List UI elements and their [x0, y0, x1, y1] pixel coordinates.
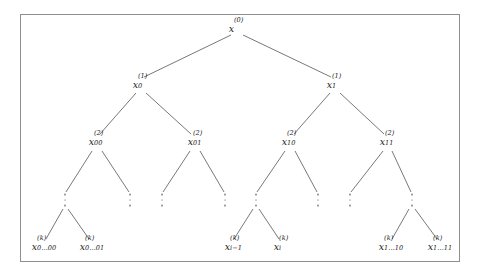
tree-edge [243, 35, 331, 77]
tree-edge [100, 93, 136, 134]
tree-edge [200, 151, 224, 192]
ellipsis-dot [411, 205, 413, 207]
node-superscript: (2) [94, 130, 103, 137]
tree-edge [295, 151, 317, 192]
tree-leaf-l5: x(k)1…101…10 [379, 242, 404, 252]
node-subscript: 0…00 [37, 245, 56, 252]
ellipsis-dot [317, 194, 319, 196]
node-subscript: 11 [385, 140, 393, 147]
tree-diagram-figure: x(0)(0)x(1)0(1)x(1)1(1)x(2)00(2)x(2)01(2… [0, 0, 479, 277]
node-subscript: 1 [332, 83, 336, 90]
node-script-stack: (k)i(k) [279, 242, 288, 252]
node-subscript: 10 [287, 140, 295, 147]
tree-edge [351, 151, 383, 192]
tree-node-n00: x(2)00(2) [89, 137, 104, 147]
tree-edge [257, 151, 285, 192]
tree-leaf-l4: x(k)i(k) [274, 242, 289, 252]
node-script-stack: (1)0(1) [138, 80, 147, 90]
node-script-stack: (k)0…000…00 [37, 242, 56, 252]
node-superscript: (k) [384, 235, 393, 242]
tree-leaf-l3: x(k)i−1(k) [225, 242, 240, 252]
node-script-stack: (0)(0) [234, 24, 243, 34]
node-superscript: (1) [138, 73, 147, 80]
node-script-stack: (1)1(1) [332, 80, 341, 90]
tree-node-n01: x(2)01(2) [188, 137, 203, 147]
node-superscript: (1) [332, 73, 341, 80]
tree-node-root: x(0)(0) [229, 24, 244, 34]
tree-edge [144, 35, 231, 77]
tree-edge [46, 209, 63, 239]
tree-node-n10: x(2)10(2) [282, 137, 297, 147]
node-subscript: 00 [94, 140, 102, 147]
vertical-ellipsis-d2 [129, 194, 132, 207]
ellipsis-dot [349, 199, 351, 201]
tree-edge [163, 151, 190, 192]
node-subscript: 0…01 [85, 245, 104, 252]
ellipsis-dot [255, 194, 257, 196]
ellipsis-dot [161, 205, 163, 207]
ellipsis-dot [317, 199, 319, 201]
ellipsis-dot [255, 199, 257, 201]
ellipsis-dot [224, 194, 226, 196]
vertical-ellipsis-d7 [349, 194, 352, 207]
tree-edge [146, 93, 191, 134]
tree-node-n11: x(2)11(2) [380, 137, 395, 147]
ellipsis-dot [161, 194, 163, 196]
tree-edge [259, 209, 279, 239]
node-script-stack: (k)0…010…01 [85, 242, 104, 252]
ellipsis-dot [64, 205, 66, 207]
tree-edge [102, 151, 129, 192]
ellipsis-dot [129, 194, 131, 196]
ellipsis-dot [411, 194, 413, 196]
ellipsis-dot [224, 205, 226, 207]
ellipsis-dot [64, 199, 66, 201]
ellipsis-dot [129, 199, 131, 201]
node-script-stack: (2)00(2) [94, 137, 103, 147]
node-script-stack: (k)i−1(k) [230, 242, 239, 252]
node-superscript: (2) [385, 130, 394, 137]
node-script-stack: (2)10(2) [287, 137, 296, 147]
node-script-stack: (k)1…101…10 [384, 242, 403, 252]
node-superscript: (2) [193, 130, 202, 137]
node-script-stack: (2)11(2) [385, 137, 394, 147]
ellipsis-dot [317, 205, 319, 207]
node-superscript: (2) [287, 130, 296, 137]
node-script-stack: (k)1…111…11 [433, 242, 452, 252]
ellipsis-dot [349, 194, 351, 196]
node-superscript: (k) [279, 235, 288, 242]
tree-leaf-l2: x(k)0…010…01 [80, 242, 105, 252]
tree-edge [294, 93, 330, 134]
vertical-ellipsis-d4 [224, 194, 227, 207]
ellipsis-dot [224, 199, 226, 201]
node-superscript: (k) [37, 235, 46, 242]
ellipsis-dot [64, 194, 66, 196]
vertical-ellipsis-d6 [317, 194, 320, 207]
ellipsis-dot [129, 205, 131, 207]
tree-edge [392, 209, 409, 239]
node-subscript: 1…10 [384, 245, 403, 252]
vertical-ellipsis-d3 [161, 194, 164, 207]
ellipsis-dot [161, 199, 163, 201]
ellipsis-dot [411, 199, 413, 201]
node-subscript: i−1 [230, 245, 242, 252]
vertical-ellipsis-d1 [64, 194, 67, 207]
node-superscript: (k) [85, 235, 94, 242]
tree-node-n0: x(1)0(1) [133, 80, 148, 90]
tree-edge [340, 93, 384, 134]
node-subscript: i [279, 245, 281, 252]
node-superscript: (k) [230, 235, 239, 242]
node-subscript: 1…11 [433, 245, 452, 252]
tree-leaf-l6: x(k)1…111…11 [428, 242, 453, 252]
node-subscript: 0 [138, 83, 142, 90]
ellipsis-dot [349, 205, 351, 207]
node-subscript: 01 [193, 140, 201, 147]
node-script-stack: (2)01(2) [193, 137, 202, 147]
vertical-ellipsis-d5 [255, 194, 258, 207]
tree-edge [66, 151, 92, 192]
tree-leaf-l1: x(k)0…000…00 [32, 242, 57, 252]
node-superscript: (0) [234, 17, 243, 24]
tree-node-n1: x(1)1(1) [327, 80, 342, 90]
tree-edge [392, 151, 411, 192]
vertical-ellipsis-d8 [411, 194, 414, 207]
ellipsis-dot [255, 205, 257, 207]
